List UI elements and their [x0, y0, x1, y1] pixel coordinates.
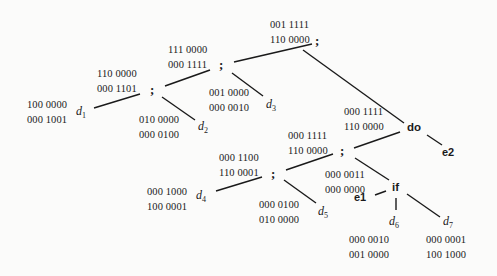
gen-kill-do: 000 1111 110 0000 — [344, 104, 384, 134]
gen-set: 001 1111 — [270, 17, 310, 32]
kill-set: 000 0010 — [209, 100, 249, 115]
expression-node-e1: e1 — [354, 190, 366, 204]
gen-kill-d7: 000 0001 100 1000 — [426, 232, 466, 262]
kill-set: 110 0000 — [344, 119, 384, 134]
seq-node-4: ; — [340, 144, 344, 158]
definition-node-d5: d5 — [318, 204, 328, 223]
kill-set: 100 1000 — [426, 247, 466, 262]
kill-set: 000 1001 — [27, 112, 67, 127]
kill-set: 000 1111 — [168, 57, 207, 72]
definition-node-d3: d3 — [266, 97, 276, 116]
gen-set: 000 1111 — [288, 128, 328, 143]
gen-kill-seq2: 111 0000 000 1111 — [168, 42, 207, 72]
edge-do-e2 — [427, 135, 442, 145]
gen-set: 001 0000 — [209, 85, 249, 100]
kill-set: 000 1101 — [97, 81, 137, 96]
gen-set: 000 1000 — [147, 184, 187, 199]
gen-kill-seq4: 000 1111 110 0000 — [288, 128, 328, 158]
kill-set: 010 0000 — [259, 212, 299, 227]
gen-kill-seq5: 000 1100 110 0001 — [219, 150, 259, 180]
kill-set: 110 0000 — [288, 143, 328, 158]
tree-edges — [0, 0, 497, 276]
gen-kill-seq3: 110 0000 000 1101 — [97, 66, 137, 96]
kill-set: 000 0100 — [139, 127, 179, 142]
gen-set: 000 1100 — [219, 150, 259, 165]
definition-node-d1: d1 — [76, 104, 86, 123]
expression-node-e2: e2 — [442, 145, 454, 159]
gen-kill-d3: 001 0000 000 0010 — [209, 85, 249, 115]
kill-set: 110 0000 — [270, 32, 310, 47]
edge-if-d7 — [407, 194, 440, 217]
gen-kill-d2: 010 0000 000 0100 — [139, 112, 179, 142]
gen-set: 000 0100 — [259, 197, 299, 212]
if-node: if — [392, 180, 399, 194]
definition-node-d2: d2 — [198, 119, 208, 138]
gen-set: 110 0000 — [97, 66, 137, 81]
definition-node-d6: d6 — [389, 214, 399, 233]
gen-kill-d5: 000 0100 010 0000 — [259, 197, 299, 227]
definition-node-d7: d7 — [443, 214, 453, 233]
gen-kill-d1: 100 0000 000 1001 — [27, 97, 67, 127]
gen-set: 000 0010 — [349, 232, 389, 247]
edge-seq3-d1 — [94, 94, 140, 108]
seq-node-5: ; — [271, 167, 275, 181]
seq-node-3: ; — [150, 83, 154, 97]
gen-kill-root: 001 1111 110 0000 — [270, 17, 310, 47]
kill-set: 100 0001 — [147, 199, 187, 214]
syntax-tree-diagram: 001 1111 110 0000 ; 111 0000 000 1111 ; … — [0, 0, 497, 276]
gen-set: 111 0000 — [168, 42, 207, 57]
do-node: do — [407, 120, 421, 134]
edge-do-seq4 — [354, 132, 400, 148]
gen-set: 010 0000 — [139, 112, 179, 127]
gen-set: 100 0000 — [27, 97, 67, 112]
seq-node-root: ; — [315, 34, 319, 48]
seq-node-2: ; — [219, 58, 223, 72]
kill-set: 001 0000 — [349, 247, 389, 262]
gen-kill-d4: 000 1000 100 0001 — [147, 184, 187, 214]
gen-set: 000 1111 — [344, 104, 384, 119]
gen-kill-d6: 000 0010 001 0000 — [349, 232, 389, 262]
edge-if-e1 — [375, 191, 386, 195]
gen-set: 000 0001 — [426, 232, 466, 247]
kill-set: 110 0001 — [219, 165, 259, 180]
gen-set: 000 0011 — [325, 167, 365, 182]
definition-node-d4: d4 — [196, 188, 206, 207]
edge-seq2-seq3 — [165, 70, 210, 86]
